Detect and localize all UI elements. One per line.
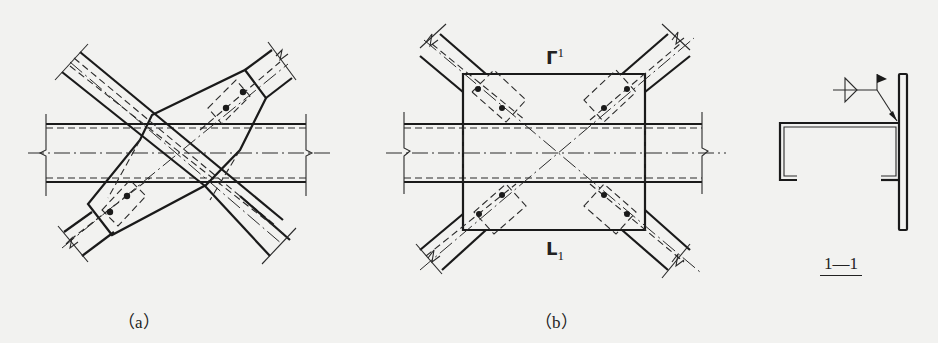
section-mark-bottom-number: 1 [557, 248, 564, 263]
section-mark-top-number: 1 [557, 45, 564, 60]
panel-b-brace-axis-2 [420, 38, 694, 270]
section-mark-bottom: L1 [546, 238, 564, 264]
section-1-1-drawing [780, 74, 907, 230]
panel-a-label: （a） [118, 308, 160, 333]
section-gusset-plate [899, 74, 907, 230]
field-weld-flag-icon [877, 74, 887, 83]
section-mark-bottom-symbol: L [546, 238, 557, 259]
panel-a-brace-lower [58, 64, 288, 262]
section-mark-top: Γ1 [546, 45, 564, 68]
panel-b-label: （b） [535, 308, 578, 333]
section-1-1-label: 1—1 [820, 254, 862, 276]
section-channel [780, 123, 899, 180]
section-mark-top-symbol: Γ [546, 47, 557, 68]
panel-a-brace-continuous [55, 44, 296, 264]
weld-symbol [833, 74, 897, 121]
panel-b-beam [386, 112, 726, 194]
panel-a-brace-upper [108, 42, 296, 200]
connection-detail-drawing [0, 0, 938, 343]
panel-a-drawing [28, 42, 330, 264]
